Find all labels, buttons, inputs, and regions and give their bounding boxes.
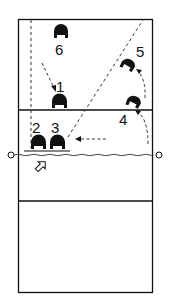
arrow-to-4 (137, 112, 148, 144)
player-6-label: 6 (55, 41, 63, 58)
volleyball-court-diagram: 6 1 2 3 4 5 (0, 0, 169, 308)
arrow-6-to-1 (42, 63, 54, 88)
player-3-label: 3 (51, 119, 59, 136)
dashed-diagonal (68, 20, 143, 137)
player-2-label: 2 (32, 119, 40, 136)
player-5-label: 5 (136, 43, 144, 60)
player-5: 5 (119, 43, 144, 73)
player-4-label: 4 (119, 111, 127, 128)
ball-direction-arrow-icon (33, 158, 49, 174)
player-6: 6 (54, 24, 68, 58)
player-3: 3 (50, 119, 65, 149)
player-1-label: 1 (56, 78, 64, 95)
player-1: 1 (52, 78, 67, 108)
net (14, 154, 153, 156)
arrowhead-icon (75, 136, 81, 142)
arrow-to-5 (138, 71, 145, 98)
court-outline (19, 20, 153, 293)
arrowhead-icon (135, 110, 141, 115)
net-post-right (156, 152, 162, 158)
net-post-left (8, 152, 14, 158)
arrowhead-icon (136, 69, 142, 74)
player-2: 2 (31, 119, 46, 149)
